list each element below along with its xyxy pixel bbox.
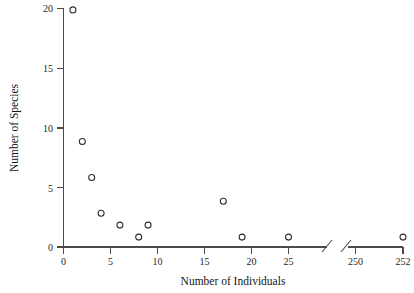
data-point [117,222,123,228]
data-point [70,7,76,13]
data-point [136,234,142,240]
data-point [98,210,104,216]
y-tick-label-10: 10 [43,123,53,134]
y-tick-label-15: 15 [43,63,53,74]
y-tick-label-0: 0 [48,242,53,253]
y-tick-label-20: 20 [43,3,53,14]
data-point [89,174,95,180]
x-tick-label-5: 5 [108,256,113,267]
x-tick-label-252: 252 [396,256,411,267]
data-point [239,234,245,240]
data-point [79,139,85,145]
plot-canvas: 20 15 10 5 0 0 5 10 15 20 25 250 [0,0,414,293]
x-axis-group: 0 5 10 15 20 25 250 252 [61,240,411,267]
data-point [286,234,292,240]
scatter-plot-figure: 20 15 10 5 0 0 5 10 15 20 25 250 [0,0,414,293]
x-tick-label-10: 10 [153,256,163,267]
axis-break-slash-left [322,240,332,252]
x-tick-label-15: 15 [200,256,210,267]
data-point [400,234,406,240]
y-axis-title: Number of Species [8,83,21,172]
y-axis-group: 20 15 10 5 0 [43,3,64,253]
y-tick-label-5: 5 [48,183,53,194]
x-tick-label-25: 25 [284,256,294,267]
x-tick-label-0: 0 [61,256,66,267]
data-point [145,222,151,228]
x-tick-label-250: 250 [348,256,363,267]
x-axis-title: Number of Individuals [181,275,286,287]
data-points-group [70,7,406,240]
axis-break-slash-right [341,240,351,252]
x-tick-label-20: 20 [247,256,257,267]
data-point [220,198,226,204]
